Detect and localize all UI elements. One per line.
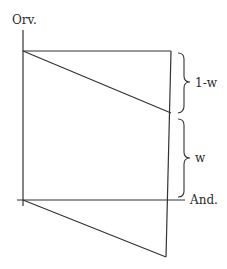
- upper-brace-label: 1-w: [195, 76, 218, 90]
- lower-diagonal-line: [23, 200, 166, 257]
- diagram-canvas: Orv. And. 1-w w: [0, 0, 227, 269]
- vertical-axis-label: Orv.: [12, 13, 37, 27]
- lower-brace-icon: [178, 119, 190, 197]
- lower-brace-label: w: [195, 151, 206, 165]
- right-vertical-line: [166, 51, 171, 257]
- horizontal-axis-label: And.: [189, 193, 218, 207]
- upper-diagonal-line: [23, 51, 171, 113]
- upper-brace-icon: [178, 53, 190, 113]
